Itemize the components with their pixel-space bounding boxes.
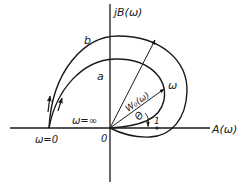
start-point-label: ω=0 [35,134,58,145]
horizontal-axis-label: A(ω) [211,123,237,136]
direction-arrow-b [48,96,50,112]
curve-a-label: a [97,70,104,83]
frequency-label: ω [168,79,177,92]
end-point-label: ω=∞ [72,115,97,126]
unit-point-label: 1 [154,116,160,126]
angle-label: Θ [132,110,146,122]
hodograph-diagram: jB(ω) A(ω) 0 b a ω=0 ω=∞ ω W₀(ω) Θ 1 [0,0,249,190]
unit-point [155,126,158,129]
origin-label: 0 [101,133,107,144]
vertical-axis-label: jB(ω) [112,6,142,19]
curve-b-label: b [84,34,91,47]
